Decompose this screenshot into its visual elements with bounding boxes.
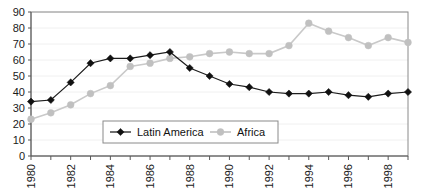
x-tick-label: 1986 (144, 164, 156, 188)
data-point-diamond (246, 84, 253, 91)
data-point-circle (305, 20, 312, 27)
x-tick-label: 1982 (65, 164, 77, 188)
y-tick-label: 90 (13, 6, 25, 18)
x-tick-label: 1996 (342, 164, 354, 188)
data-point-circle (365, 42, 372, 49)
data-point-circle (385, 34, 392, 41)
data-point-diamond (127, 55, 134, 62)
y-tick-label: 0 (19, 150, 25, 162)
data-point-diamond (206, 72, 213, 79)
data-point-circle (217, 129, 224, 136)
data-point-circle (47, 109, 54, 116)
data-point-circle (345, 34, 352, 41)
data-point-circle (405, 39, 412, 46)
y-tick-label: 60 (13, 54, 25, 66)
data-point-circle (226, 49, 233, 56)
x-tick-label: 1998 (382, 164, 394, 188)
data-point-diamond (107, 55, 114, 62)
legend-label-latin-america: Latin America (137, 126, 205, 138)
y-tick-label: 30 (13, 102, 25, 114)
y-tick-label: 50 (13, 70, 25, 82)
legend[interactable]: Latin AmericaAfrica (103, 121, 278, 143)
data-point-circle (28, 116, 35, 123)
data-point-diamond (345, 92, 352, 99)
data-point-diamond (285, 90, 292, 97)
x-tick-label: 1990 (223, 164, 235, 188)
data-point-circle (246, 50, 253, 57)
y-tick-label: 70 (13, 38, 25, 50)
data-point-diamond (325, 88, 332, 95)
x-tick-label: 1984 (104, 164, 116, 188)
data-point-diamond (27, 98, 34, 105)
data-point-circle (325, 28, 332, 35)
data-point-circle (206, 50, 213, 57)
data-point-diamond (266, 88, 273, 95)
data-point-diamond (305, 90, 312, 97)
data-point-circle (166, 55, 173, 62)
chart-canvas: 0102030405060708090198019821984198619881… (0, 0, 423, 195)
data-point-circle (87, 90, 94, 97)
data-point-diamond (365, 93, 372, 100)
x-tick-label: 1980 (25, 164, 37, 188)
series-africa (28, 20, 412, 123)
y-tick-label: 40 (13, 86, 25, 98)
data-point-circle (147, 60, 154, 67)
data-point-circle (266, 50, 273, 57)
y-tick-label: 20 (13, 118, 25, 130)
x-tick-label: 1988 (184, 164, 196, 188)
data-point-diamond (146, 52, 153, 59)
data-point-diamond (404, 88, 411, 95)
y-tick-label: 10 (13, 134, 25, 146)
legend-label-africa: Africa (237, 126, 266, 138)
x-tick-label: 1994 (303, 164, 315, 188)
y-axis: 0102030405060708090 (13, 6, 31, 162)
data-point-diamond (385, 90, 392, 97)
data-point-circle (67, 101, 74, 108)
x-tick-label: 1992 (263, 164, 275, 188)
y-tick-label: 80 (13, 22, 25, 34)
data-point-diamond (226, 80, 233, 87)
data-point-circle (107, 82, 114, 89)
data-point-circle (186, 53, 193, 60)
data-point-circle (286, 42, 293, 49)
x-axis: 1980198219841986198819901992199419961998 (25, 156, 408, 188)
line-chart: 0102030405060708090198019821984198619881… (0, 0, 423, 195)
data-point-circle (127, 63, 134, 70)
